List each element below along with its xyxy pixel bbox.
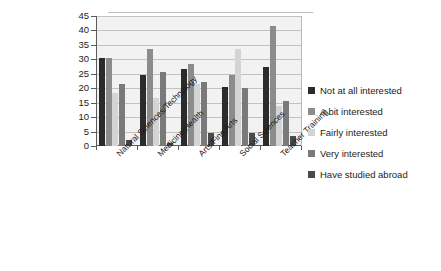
- bar-group: [140, 16, 172, 146]
- bar: [99, 58, 105, 146]
- legend-swatch-icon: [308, 108, 315, 115]
- bar: [263, 67, 269, 146]
- bar: [181, 69, 187, 146]
- legend-item[interactable]: Not at all interested: [308, 80, 438, 101]
- y-axis-tick: [91, 59, 96, 60]
- y-axis-tick-label: 20: [78, 83, 89, 93]
- bar: [276, 106, 282, 146]
- legend-item[interactable]: A bit interested: [308, 101, 438, 122]
- bar: [167, 143, 173, 146]
- legend-item[interactable]: Have studied abroad: [308, 164, 438, 185]
- bar: [160, 72, 166, 146]
- y-axis-tick-label: 10: [78, 112, 89, 122]
- legend-item-label: Have studied abroad: [320, 170, 408, 180]
- y-axis-tick: [91, 74, 96, 75]
- legend-swatch-icon: [308, 150, 315, 157]
- y-axis-tick: [91, 45, 96, 46]
- legend-swatch-icon: [308, 87, 315, 94]
- y-axis-tick-label: 35: [78, 40, 89, 50]
- bar: [194, 84, 200, 146]
- x-axis-tick: [260, 146, 261, 150]
- y-axis-tick: [91, 16, 96, 17]
- y-axis-tick-label: 5: [84, 127, 89, 137]
- y-axis-tick-label: 0: [84, 141, 89, 151]
- y-axis-tick: [91, 30, 96, 31]
- x-axis-tick: [96, 146, 97, 150]
- chart-legend: Not at all interestedA bit interestedFai…: [308, 80, 438, 185]
- bar: [126, 140, 132, 146]
- bar: [106, 58, 112, 146]
- x-axis-tick: [301, 146, 302, 150]
- legend-swatch-icon: [308, 171, 315, 178]
- bar-group: [263, 16, 295, 146]
- y-axis-tick-label: 30: [78, 55, 89, 65]
- x-axis-tick: [219, 146, 220, 150]
- x-axis-tick: [178, 146, 179, 150]
- bar: [147, 49, 153, 146]
- bar: [283, 101, 289, 146]
- legend-item[interactable]: Fairly interested: [308, 122, 438, 143]
- legend-item-label: Fairly interested: [320, 128, 388, 138]
- bar-group: [99, 16, 131, 146]
- y-axis-tick-label: 15: [78, 98, 89, 108]
- x-axis-tick: [137, 146, 138, 150]
- bar: [140, 75, 146, 146]
- bar: [153, 98, 159, 146]
- y-axis-line: [96, 16, 97, 146]
- plot-area: 051015202530354045: [96, 16, 301, 146]
- bar: [201, 82, 207, 146]
- y-axis-tick: [91, 117, 96, 118]
- legend-item-label: A bit interested: [320, 107, 383, 117]
- bar: [188, 64, 194, 146]
- bar: [112, 93, 118, 146]
- legend-item[interactable]: Very interested: [308, 143, 438, 164]
- bar: [270, 26, 276, 146]
- legend-swatch-icon: [308, 129, 315, 136]
- bar: [119, 84, 125, 146]
- legend-item-label: Not at all interested: [320, 86, 402, 96]
- y-axis-tick-label: 25: [78, 69, 89, 79]
- bar: [229, 75, 235, 146]
- bar: [235, 49, 241, 146]
- y-axis-tick: [91, 132, 96, 133]
- bar: [242, 88, 248, 146]
- bar: [290, 136, 296, 146]
- y-axis-tick: [91, 88, 96, 89]
- bar: [208, 133, 214, 146]
- bar: [222, 87, 228, 146]
- bar: [249, 133, 255, 146]
- y-axis-tick-label: 45: [78, 11, 89, 21]
- y-axis-tick: [91, 103, 96, 104]
- bar-chart: 051015202530354045 Natural Sciences/Tech…: [0, 0, 441, 271]
- bar-group: [181, 16, 213, 146]
- y-axis-tick-label: 40: [78, 26, 89, 36]
- bar-group: [222, 16, 254, 146]
- legend-item-label: Very interested: [320, 149, 383, 159]
